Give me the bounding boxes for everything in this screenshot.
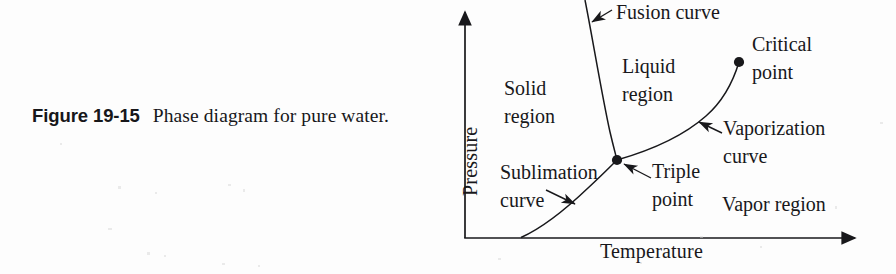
critical-point-label-line2: point <box>752 58 812 86</box>
phase-diagram: Pressure Temperature Solid region Liquid… <box>0 0 896 274</box>
vaporization-curve-label: Vaporization curve <box>723 114 825 170</box>
x-axis-label: Temperature <box>600 241 703 262</box>
fusion-curve-label: Fusion curve <box>616 2 720 23</box>
vaporization-curve-label-line2: curve <box>723 142 825 170</box>
critical-point-label: Critical point <box>752 30 812 86</box>
solid-region-label-line2: region <box>504 102 555 130</box>
triple-point-dot <box>612 155 622 165</box>
sublimation-curve-label-line2: curve <box>500 186 598 214</box>
critical-point-dot <box>734 57 744 67</box>
sublimation-curve-label-line1: Sublimation <box>500 158 598 186</box>
triple-point-label: Triple point <box>652 157 700 213</box>
figure-container: Figure 19-15Phase diagram for pure water… <box>0 0 896 274</box>
solid-region-label: Solid region <box>504 74 555 130</box>
vaporization-curve-leader-arrow <box>699 122 722 133</box>
vapor-region-label: Vapor region <box>722 194 826 215</box>
y-axis-label: Pressure <box>460 127 481 196</box>
vaporization-curve-label-line1: Vaporization <box>723 114 825 142</box>
triple-point-label-line2: point <box>652 185 700 213</box>
liquid-region-label-line1: Liquid <box>622 52 675 80</box>
fusion-curve-leader-arrow <box>592 10 612 22</box>
sublimation-curve-label: Sublimation curve <box>500 158 598 214</box>
liquid-region-label-line2: region <box>622 80 675 108</box>
liquid-region-label: Liquid region <box>622 52 675 108</box>
solid-region-label-line1: Solid <box>504 74 555 102</box>
triple-point-label-line1: Triple <box>652 157 700 185</box>
triple-point-leader-arrow <box>624 164 651 178</box>
critical-point-label-line1: Critical <box>752 30 812 58</box>
fusion-curve-path <box>585 0 617 160</box>
